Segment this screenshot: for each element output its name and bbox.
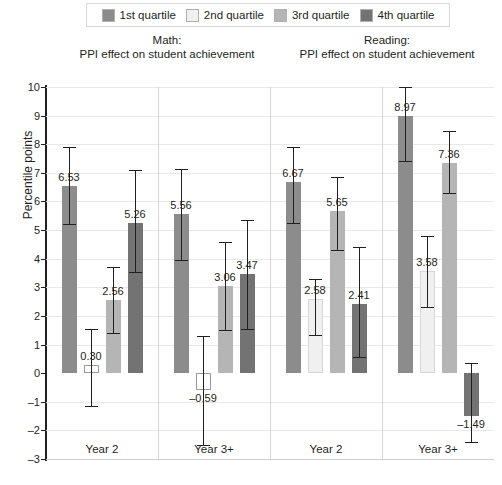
legend-item-label: 3rd quartile: [292, 10, 350, 21]
bar-value-label: 6.67: [273, 168, 313, 179]
y-axis-tick-label: 1: [10, 340, 40, 351]
legend-swatch-icon: [102, 9, 115, 22]
bar-value-label: 5.56: [161, 200, 201, 211]
bar-value-label: 6.53: [49, 172, 89, 183]
error-bar-line: [427, 236, 428, 308]
bar-value-label: 3.47: [227, 260, 267, 271]
bar-value-label: 2.41: [339, 290, 379, 301]
chart-legend: 1st quartile2nd quartile3rd quartile4th …: [86, 3, 450, 27]
error-bar-cap-upper: [443, 131, 456, 132]
error-bar-cap-upper: [175, 169, 188, 170]
panel-title-math-line2: PPI effect on student achievement: [52, 47, 282, 61]
group-separator: [270, 87, 271, 459]
bar-value-label: –1.49: [451, 419, 491, 430]
error-bar-line: [337, 177, 338, 250]
error-bar-cap-lower: [85, 406, 98, 407]
error-bar-line: [181, 169, 182, 261]
error-bar-cap-upper: [399, 87, 412, 88]
y-axis-tick-label: –3: [10, 454, 40, 465]
error-bar-cap-upper: [219, 242, 232, 243]
legend-item-3[interactable]: 3rd quartile: [274, 9, 350, 22]
legend-item-label: 1st quartile: [120, 10, 176, 21]
error-bar-cap-lower: [399, 161, 412, 162]
bar-value-label: –0.59: [183, 393, 223, 404]
error-bar-cap-lower: [175, 260, 188, 261]
error-bar-cap-lower: [353, 357, 366, 358]
x-axis-category-label: Year 3+: [158, 443, 270, 455]
panel-title-reading: Reading: PPI effect on student achieveme…: [272, 33, 502, 61]
legend-swatch-icon: [274, 9, 287, 22]
error-bar-cap-lower: [219, 330, 232, 331]
error-bar-line: [225, 242, 226, 331]
error-bar-cap-lower: [443, 193, 456, 194]
error-bar-line: [113, 267, 114, 333]
error-bar-line: [405, 87, 406, 161]
panel-title-reading-line1: Reading:: [272, 33, 502, 47]
error-bar-line: [247, 220, 248, 329]
error-bar-cap-upper: [465, 363, 478, 364]
bar-value-label: 5.26: [115, 209, 155, 220]
error-bar-cap-lower: [63, 224, 76, 225]
error-bar-line: [135, 170, 136, 272]
y-axis-tick-label: 10: [10, 82, 40, 93]
x-axis-category-label: Year 2: [270, 443, 382, 455]
y-axis-tick-label: 0: [10, 368, 40, 379]
panel-title-math-line1: Math:: [52, 33, 282, 47]
group-separator: [382, 87, 383, 459]
error-bar-cap-upper: [107, 267, 120, 268]
panel-title-reading-line2: PPI effect on student achievement: [272, 47, 502, 61]
y-axis-tick-label: 8: [10, 139, 40, 150]
legend-item-1[interactable]: 1st quartile: [102, 9, 176, 22]
legend-item-label: 2nd quartile: [204, 10, 264, 21]
error-bar-line: [69, 147, 70, 224]
error-bar-cap-lower: [241, 329, 254, 330]
error-bar-cap-lower: [331, 250, 344, 251]
error-bar-cap-upper: [309, 279, 322, 280]
error-bar-cap-upper: [63, 147, 76, 148]
legend-item-4[interactable]: 4th quartile: [360, 9, 435, 22]
error-bar-cap-upper: [421, 236, 434, 237]
error-bar-line: [203, 336, 204, 445]
error-bar-line: [293, 147, 294, 223]
error-bar-line: [449, 131, 450, 193]
panel-title-math: Math: PPI effect on student achievement: [52, 33, 282, 61]
y-axis-tick-label: –2: [10, 425, 40, 436]
y-axis-tick-label: –1: [10, 397, 40, 408]
error-bar-cap-lower: [309, 335, 322, 336]
x-axis-category-label: Year 3+: [382, 443, 494, 455]
error-bar-cap-lower: [287, 223, 300, 224]
group-separator: [158, 87, 159, 459]
y-axis-tick-label: 6: [10, 196, 40, 207]
legend-swatch-icon: [360, 9, 373, 22]
error-bar-cap-upper: [85, 329, 98, 330]
error-bar-line: [91, 329, 92, 406]
y-axis-tick-label: 9: [10, 111, 40, 122]
error-bar-cap-upper: [287, 147, 300, 148]
error-bar-cap-lower: [129, 272, 142, 273]
error-bar-cap-upper: [331, 177, 344, 178]
gridline: [46, 459, 494, 460]
legend-swatch-icon: [186, 9, 199, 22]
error-bar-cap-lower: [107, 333, 120, 334]
x-axis-category-label: Year 2: [46, 443, 158, 455]
bar-value-label: 7.36: [429, 149, 469, 160]
bar[interactable]: [442, 163, 457, 374]
bar-value-label: 8.97: [385, 102, 425, 113]
error-bar-line: [359, 247, 360, 357]
y-axis-tick-label: 5: [10, 225, 40, 236]
chart-page: 1st quartile2nd quartile3rd quartile4th …: [0, 0, 502, 485]
error-bar-cap-upper: [197, 336, 210, 337]
y-axis-tick-label: 7: [10, 168, 40, 179]
bar-value-label: 5.65: [317, 197, 357, 208]
legend-item-label: 4th quartile: [378, 10, 435, 21]
error-bar-line: [471, 363, 472, 442]
y-axis-tick-label: 4: [10, 254, 40, 265]
y-axis-tick-label: 3: [10, 282, 40, 293]
error-bar-cap-upper: [129, 170, 142, 171]
plot-area: 6.530.302.565.265.56–0.593.063.476.672.5…: [46, 87, 494, 459]
legend-item-2[interactable]: 2nd quartile: [186, 9, 264, 22]
error-bar-cap-upper: [353, 247, 366, 248]
y-axis-tick-label: 2: [10, 311, 40, 322]
error-bar-cap-upper: [241, 220, 254, 221]
error-bar-cap-lower: [421, 307, 434, 308]
